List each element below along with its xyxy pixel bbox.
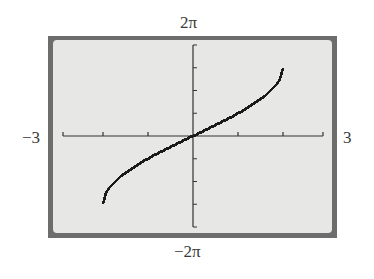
xmax-label: 3: [343, 129, 352, 146]
plot-area: [53, 40, 332, 233]
ymax-label: 2π: [180, 14, 197, 31]
xmin-label: −3: [22, 129, 40, 146]
ymin-label: −2π: [174, 243, 201, 260]
graph-screen: [53, 40, 332, 233]
calculator-screen-frame: [48, 36, 337, 238]
